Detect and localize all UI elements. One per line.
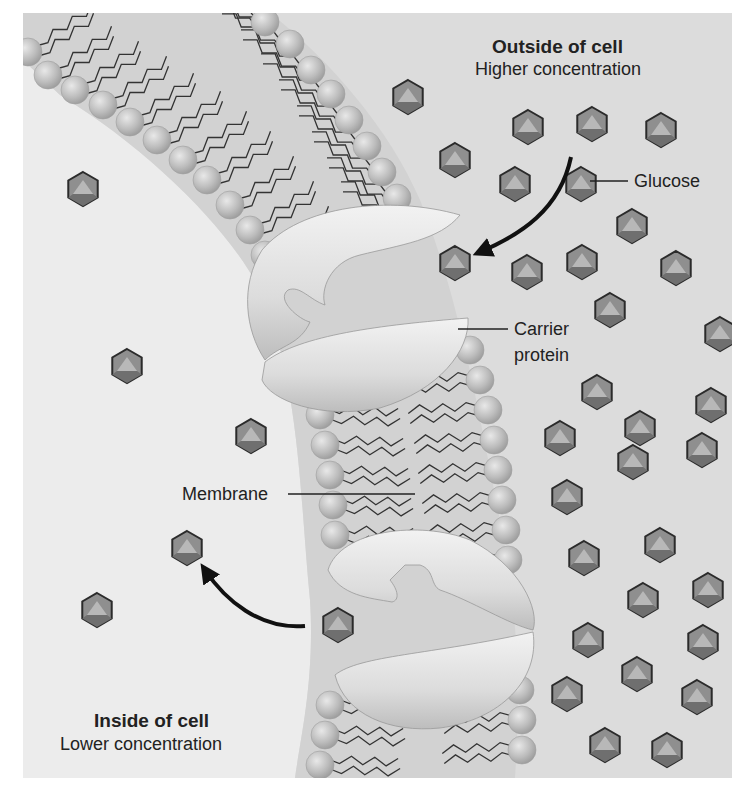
phospholipid-head <box>474 396 502 424</box>
phospholipid-head <box>317 80 345 108</box>
outside-region-subtitle: Higher concentration <box>475 59 641 80</box>
glucose-molecule-outside <box>645 528 674 562</box>
glucose-molecule-outside <box>682 680 711 714</box>
phospholipid-head <box>321 521 349 549</box>
glucose-molecule-inside <box>82 593 111 627</box>
phospholipid-head <box>297 56 325 84</box>
glucose-molecule-outside <box>512 255 541 289</box>
phospholipid-head <box>316 691 344 719</box>
glucose-molecule-outside <box>625 411 654 445</box>
inside-region-title: Inside of cell <box>94 710 209 732</box>
facilitated-diffusion-diagram: Outside of cell Higher concentration Glu… <box>0 0 749 798</box>
phospholipid-head <box>492 516 520 544</box>
phospholipid-head <box>276 30 304 58</box>
glucose-molecule-outside <box>628 583 657 617</box>
glucose-molecule-outside <box>552 480 581 514</box>
glucose-molecule-outside <box>440 246 469 280</box>
phospholipid-head <box>316 461 344 489</box>
inside-region-subtitle: Lower concentration <box>60 734 222 755</box>
glucose-molecule-inside <box>172 531 201 565</box>
phospholipid-head <box>169 146 197 174</box>
phospholipid-head <box>508 706 536 734</box>
glucose-molecule-inside <box>68 172 97 206</box>
glucose-molecule-outside <box>566 167 595 201</box>
membrane-label: Membrane <box>182 484 268 505</box>
phospholipid-head <box>335 106 363 134</box>
glucose-molecule-outside <box>652 733 681 767</box>
phospholipid-head <box>484 456 512 484</box>
phospholipid-head <box>508 736 536 764</box>
glucose-molecule-outside <box>552 677 581 711</box>
glucose-label: Glucose <box>634 171 700 192</box>
phospholipid-head <box>34 61 62 89</box>
glucose-molecule-outside <box>569 541 598 575</box>
carrier-protein-label-line1: Carrier <box>514 319 569 340</box>
phospholipid-head <box>319 491 347 519</box>
glucose-molecule-outside <box>696 388 725 422</box>
phospholipid-head <box>236 216 264 244</box>
glucose-molecule-outside <box>646 113 675 147</box>
glucose-molecule-outside <box>545 421 574 455</box>
phospholipid-head <box>116 108 144 136</box>
glucose-molecule-outside <box>567 245 596 279</box>
glucose-molecule-outside <box>705 317 734 351</box>
glucose-molecule-inside <box>112 349 141 383</box>
glucose-molecule-outside <box>440 143 469 177</box>
glucose-molecule-outside <box>500 167 529 201</box>
glucose-molecule-outside <box>590 728 619 762</box>
diagram-canvas <box>0 0 749 798</box>
phospholipid-head <box>368 158 396 186</box>
phospholipid-head <box>311 431 339 459</box>
phospholipid-head <box>353 132 381 160</box>
glucose-molecule-inside <box>323 608 352 642</box>
glucose-molecule-inside <box>236 419 265 453</box>
glucose-molecule-outside <box>393 80 422 114</box>
glucose-molecule-outside <box>688 625 717 659</box>
phospholipid-head <box>480 426 508 454</box>
phospholipid-head <box>488 486 516 514</box>
phospholipid-head <box>61 76 89 104</box>
glucose-molecule-outside <box>513 110 542 144</box>
glucose-molecule-outside <box>618 445 647 479</box>
outside-region-title: Outside of cell <box>492 36 623 58</box>
glucose-molecule-outside <box>582 375 611 409</box>
glucose-molecule-outside <box>622 657 651 691</box>
phospholipid-head <box>306 751 334 779</box>
phospholipid-head <box>311 721 339 749</box>
phospholipid-head <box>143 126 171 154</box>
phospholipid-head <box>193 166 221 194</box>
phospholipid-head <box>466 366 494 394</box>
glucose-molecule-outside <box>687 433 716 467</box>
phospholipid-head <box>89 91 117 119</box>
carrier-protein-label-line2: protein <box>514 345 569 366</box>
glucose-molecule-outside <box>577 107 606 141</box>
glucose-molecule-outside <box>573 623 602 657</box>
glucose-molecule-outside <box>693 573 722 607</box>
glucose-molecule-outside <box>617 209 646 243</box>
glucose-molecule-outside <box>661 251 690 285</box>
phospholipid-head <box>216 191 244 219</box>
glucose-molecule-outside <box>595 293 624 327</box>
